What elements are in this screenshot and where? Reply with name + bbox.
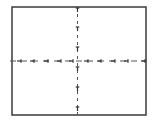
horizontal-tick-icon (17, 59, 21, 63)
horizontal-tick-icon (30, 59, 34, 63)
horizontal-tick-icon (84, 59, 88, 63)
vertical-tick-icon (76, 47, 80, 51)
horizontal-tick-icon (111, 59, 115, 63)
horizontal-tick-icon (57, 59, 61, 63)
horizontal-tick-icon (124, 59, 128, 63)
horizontal-tick-icon (69, 59, 73, 63)
horizontal-tick-icon (141, 59, 145, 63)
horizontal-tick-icon (44, 59, 48, 63)
vertical-tick-icon (76, 87, 80, 91)
crosshair-frame-diagram (0, 0, 153, 121)
vertical-tick-icon (76, 8, 80, 12)
diagram-canvas (0, 0, 153, 121)
vertical-tick-icon (76, 27, 80, 31)
horizontal-tick-icon (97, 59, 101, 63)
vertical-tick-icon (76, 107, 80, 111)
vertical-tick-icon (76, 67, 80, 71)
